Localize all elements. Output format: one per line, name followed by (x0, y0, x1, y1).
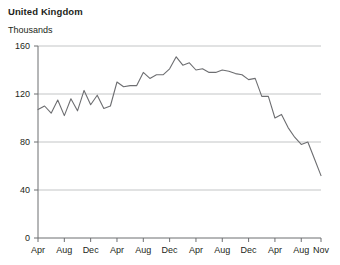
x-axis-ticks (38, 238, 321, 242)
chart-container: United Kingdom Thousands 04080120160 Apr… (0, 0, 340, 265)
y-axis-tick-label: 160 (2, 41, 30, 51)
y-axis-tick-label: 0 (2, 233, 30, 243)
data-series-line (38, 57, 321, 176)
y-axis-ticks (34, 46, 38, 238)
y-axis-tick-label: 120 (2, 89, 30, 99)
y-axis-tick-label: 40 (2, 185, 30, 195)
line-chart-plot (0, 0, 340, 265)
x-axis-tick-label: Nov (306, 245, 336, 255)
gridlines (38, 46, 321, 190)
y-axis-tick-label: 80 (2, 137, 30, 147)
